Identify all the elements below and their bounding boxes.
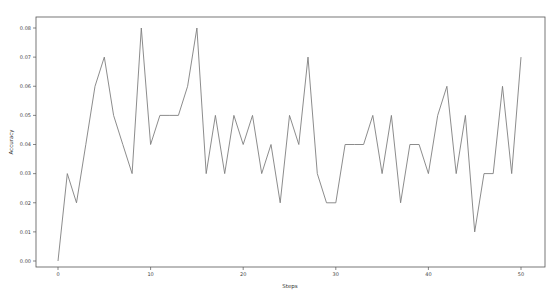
y-tick-label: 0.08 [20,25,31,31]
y-tick-label: 0.06 [20,83,31,89]
plot-frame [36,17,545,267]
y-tick-label: 0.01 [20,229,31,235]
y-tick-label: 0.07 [20,54,31,60]
accuracy-series-line [58,28,521,261]
y-tick-label: 0.02 [20,200,31,206]
y-axis-ticks: 0.000.010.020.030.040.050.060.070.08 [20,25,36,264]
x-axis-ticks: 01020304050 [56,267,524,277]
y-axis-label: Accuracy [8,129,15,155]
x-tick-label: 30 [333,271,339,277]
x-tick-label: 10 [147,271,153,277]
x-tick-label: 50 [518,271,524,277]
y-tick-label: 0.05 [20,112,31,118]
y-tick-label: 0.00 [20,258,31,264]
x-tick-label: 20 [240,271,246,277]
accuracy-line-chart: 0.000.010.020.030.040.050.060.070.08 010… [0,0,558,305]
y-tick-label: 0.04 [20,141,31,147]
y-tick-label: 0.03 [20,170,31,176]
x-axis-label: Steps [282,283,298,290]
x-tick-label: 40 [425,271,431,277]
x-tick-label: 0 [56,271,59,277]
